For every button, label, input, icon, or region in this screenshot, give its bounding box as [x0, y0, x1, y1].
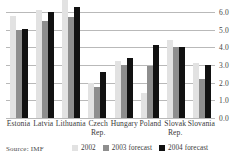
bar-group	[84, 12, 110, 118]
legend-label: 2002	[81, 144, 96, 152]
bar	[179, 47, 185, 118]
x-axis-category-labels: EstoniaLatviaLithuaniaCzechRep.HungaryPo…	[6, 119, 215, 137]
x-axis-label: Lithuania	[56, 119, 86, 137]
legend-item: 2002	[72, 144, 96, 152]
bar	[127, 58, 133, 118]
bar	[100, 72, 106, 118]
bar-group	[32, 12, 58, 118]
legend-label: 2003 forecast	[112, 144, 152, 152]
bar	[22, 29, 28, 118]
bar-group	[6, 12, 32, 118]
bar-group	[58, 12, 84, 118]
bar-group	[137, 12, 163, 118]
bar-group	[111, 12, 137, 118]
legend-swatch	[103, 145, 109, 151]
legend-item: 2004 forecast	[159, 144, 208, 152]
x-axis-label: Estonia	[6, 119, 31, 137]
x-axis-label: Hungary	[111, 119, 138, 137]
y-tick-label: 2.0	[219, 78, 229, 87]
bar-group	[163, 12, 189, 118]
y-tick-label: 1.0	[219, 96, 229, 105]
y-tick-label: 3.0	[219, 61, 229, 70]
y-tick-label: 6.0	[219, 8, 229, 17]
plot-area	[6, 12, 215, 118]
x-axis-label: Latvia	[31, 119, 56, 137]
x-axis-label: Poland	[138, 119, 163, 137]
bar	[48, 12, 54, 118]
bar-groups	[6, 12, 215, 118]
legend-swatch	[159, 145, 165, 151]
y-tick-label: 5.0	[219, 25, 229, 34]
bar	[74, 7, 80, 118]
legend-item: 2003 forecast	[103, 144, 152, 152]
x-axis-label: Slovania	[188, 119, 215, 137]
chart-legend: 20022003 forecast2004 forecast	[72, 144, 208, 152]
bar	[205, 65, 211, 118]
bar-chart: 0.01.02.03.04.05.06.0 EstoniaLatviaLithu…	[0, 0, 251, 165]
bar-group	[189, 12, 215, 118]
legend-label: 2004 forecast	[168, 144, 208, 152]
source-note: Source: IMF	[6, 145, 44, 153]
x-axis-label: SlovakRep.	[163, 119, 188, 137]
y-tick-label: 4.0	[219, 43, 229, 52]
bar	[153, 45, 159, 118]
y-tick-label: 0.0	[219, 114, 229, 123]
x-axis-label: CzechRep.	[86, 119, 111, 137]
legend-swatch	[72, 145, 78, 151]
